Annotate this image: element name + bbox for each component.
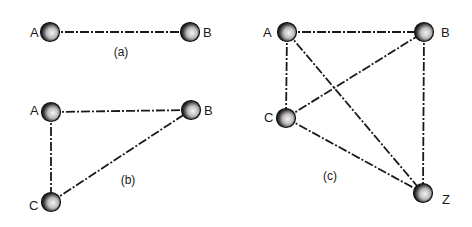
node-label: C [264,110,273,125]
node-a: A [30,23,60,42]
edge-a-b [51,110,191,112]
node-label: B [204,103,213,118]
nodes-layer: ABABCABCZ [29,23,450,214]
node-label: A [30,25,39,40]
node-a: A [263,23,297,42]
edge-c-b [286,32,424,118]
node-ball-icon [182,101,201,120]
node-ball-icon [414,184,433,203]
figure-caption: (a) [114,45,129,59]
node-ball-icon [181,23,200,42]
node-label: B [441,25,450,40]
edge-b-z [423,32,424,193]
node-b: B [181,23,212,42]
node-label: Z [442,192,450,207]
node-c: C [29,193,61,214]
figure-caption: (b) [121,173,136,187]
node-z: Z [414,184,451,208]
figure-caption: (c) [323,169,337,183]
node-b: B [182,101,213,120]
node-c: C [264,109,296,128]
edge-c-z [286,118,423,193]
captions-layer: (a)(b)(c) [114,45,337,187]
node-a: A [30,103,61,122]
network-diagram: ABABCABCZ (a)(b)(c) [0,0,472,227]
edges-layer [50,32,424,202]
node-label: A [30,103,39,118]
edge-a-z [287,32,423,193]
node-ball-icon [41,23,60,42]
node-ball-icon [277,109,296,128]
node-ball-icon [278,23,297,42]
node-label: B [203,25,212,40]
node-label: C [29,198,38,213]
edge-a-c [286,32,287,118]
node-ball-icon [415,23,434,42]
node-b: B [415,23,450,42]
node-ball-icon [42,193,61,212]
node-ball-icon [42,103,61,122]
node-label: A [263,25,272,40]
edge-c-b [51,110,191,202]
